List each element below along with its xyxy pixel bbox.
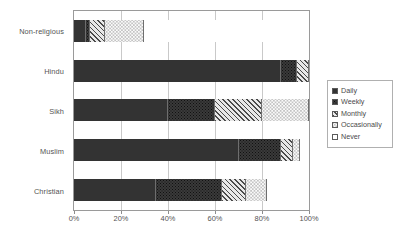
bar-row [74,51,309,91]
stacked-bar [74,139,309,161]
bar-row [74,91,309,131]
legend-label: Weekly [341,98,364,105]
legend-label: Daily [341,87,357,94]
bar-segment-weekly [281,60,297,82]
plot-area [73,10,310,211]
chart-legend: DailyWeeklyMonthlyOccasionallyNever [327,80,393,148]
y-axis-label: Non-religious [19,27,64,36]
legend-item-never[interactable]: Never [332,131,389,142]
bar-segment-daily [74,60,281,82]
stacked-bar [74,179,309,201]
x-axis-tick-label: 40% [161,214,176,223]
bar-segment-daily [74,139,239,161]
x-axis-tick-label: 80% [255,214,270,223]
bar-segment-never [300,139,309,161]
bar-segment-daily [74,99,168,121]
legend-swatch-monthly [332,111,338,117]
bar-row [74,130,309,170]
stacked-bar [74,99,309,121]
legend-item-occasionally[interactable]: Occasionally [332,120,389,131]
x-axis-tick-label: 20% [114,214,129,223]
bar-segment-never [267,179,309,201]
bar-segment-occasionally [293,139,300,161]
bar-segment-daily [74,179,156,201]
bar-segment-never [144,20,309,42]
legend-items: DailyWeeklyMonthlyOccasionallyNever [332,85,389,142]
y-axis-label: Christian [34,187,64,196]
bar-segment-weekly [156,179,222,201]
legend-swatch-occasionally [332,122,338,128]
bar-segment-monthly [281,139,293,161]
bar-segment-weekly [168,99,215,121]
legend-swatch-never [332,134,338,140]
stacked-bar-chart: Non-religiousHinduSikhMuslimChristian 0%… [0,0,399,241]
bar-row [74,170,309,210]
legend-item-daily[interactable]: Daily [332,85,389,96]
x-axis-tick-label: 0% [69,214,80,223]
legend-label: Never [341,133,360,140]
y-axis-label: Hindu [44,67,64,76]
bar-segment-monthly [222,179,246,201]
legend-swatch-weekly [332,99,338,105]
stacked-bar [74,20,309,42]
bar-segment-weekly [239,139,281,161]
bar-segment-monthly [215,99,262,121]
legend-label: Occasionally [341,121,382,128]
bar-row [74,11,309,51]
y-axis-label: Muslim [40,147,64,156]
legend-item-monthly[interactable]: Monthly [332,108,389,119]
legend-swatch-daily [332,88,338,94]
stacked-bar [74,60,309,82]
bar-segment-daily [74,20,86,42]
legend-item-weekly[interactable]: Weekly [332,97,389,108]
bar-segment-occasionally [262,99,309,121]
bar-segment-monthly [297,60,309,82]
bar-segment-occasionally [246,179,267,201]
bar-segment-occasionally [105,20,145,42]
legend-label: Monthly [341,110,366,117]
y-axis-label: Sikh [49,107,64,116]
bar-segment-monthly [90,20,104,42]
x-axis-tick-label: 60% [208,214,223,223]
x-axis-tick-label: 100% [300,214,319,223]
